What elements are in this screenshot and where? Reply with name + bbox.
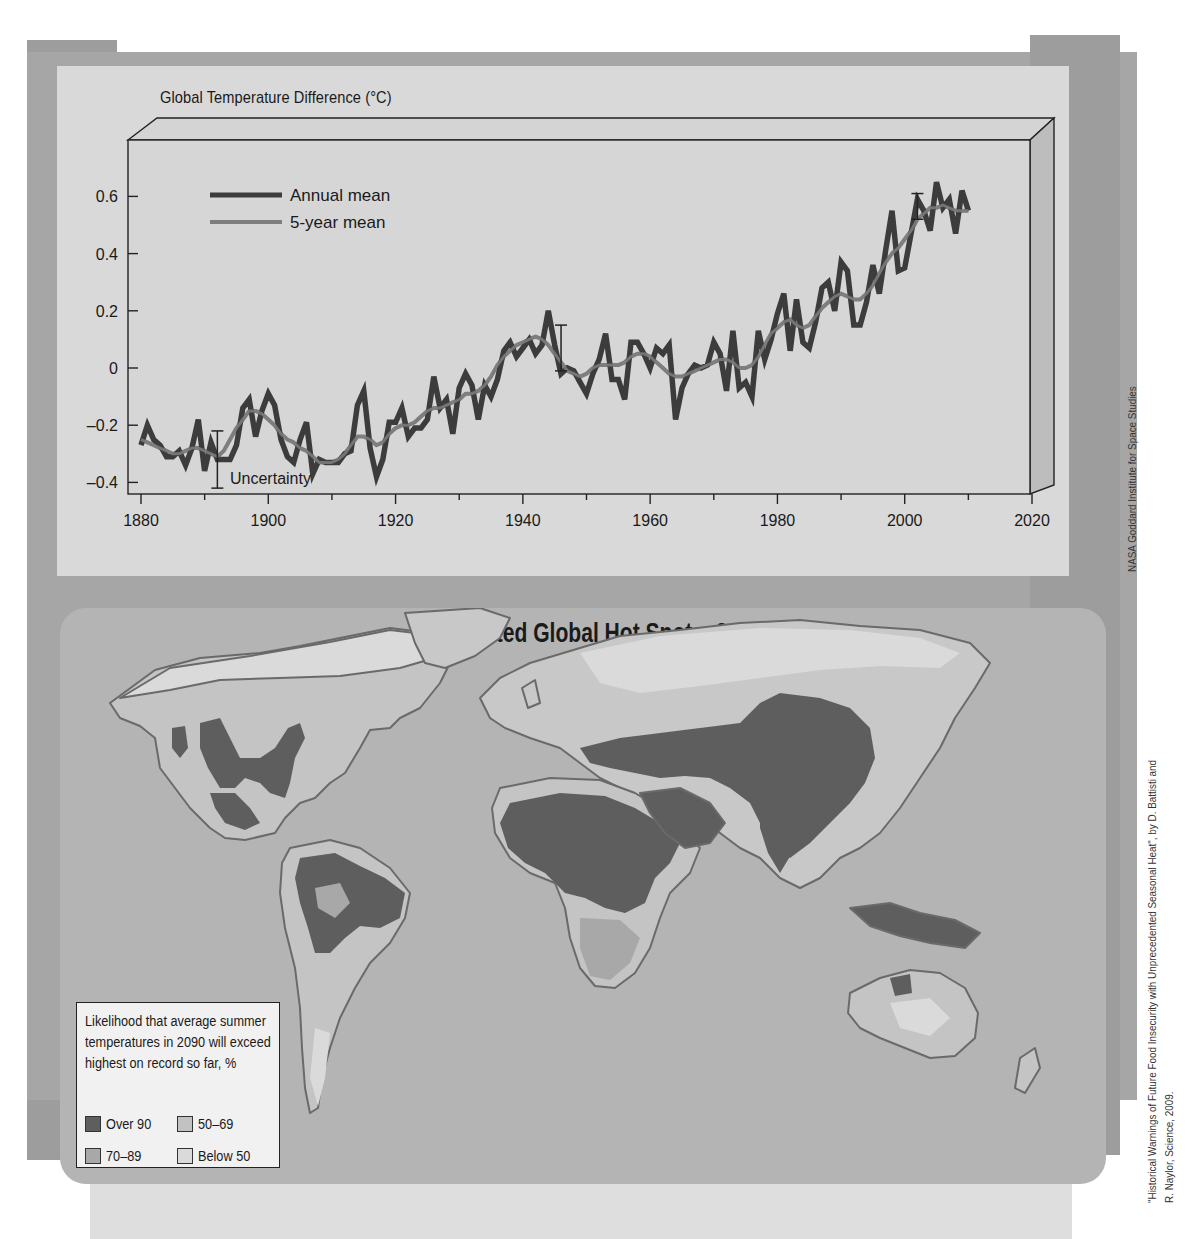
svg-text:1900: 1900 xyxy=(250,512,286,529)
swatch-70-89 xyxy=(85,1148,101,1164)
svg-text:–0.4: –0.4 xyxy=(87,474,118,491)
chart-box-top xyxy=(128,118,1054,140)
line-chart: –0.4–0.200.20.40.6 188019001920194019601… xyxy=(0,0,1194,600)
svg-text:1980: 1980 xyxy=(760,512,796,529)
svg-text:1920: 1920 xyxy=(378,512,414,529)
swatch-below-50 xyxy=(177,1148,193,1164)
map-source-credit-line1: "Historical Warnings of Future Food Inse… xyxy=(1146,760,1158,1203)
x-axis-ticks: 18801900192019401960198020002020 xyxy=(123,494,1050,529)
legend-item-50-69: 50–69 xyxy=(177,1115,241,1133)
legend-item-70-89: 70–89 xyxy=(85,1147,149,1165)
svg-text:1940: 1940 xyxy=(505,512,541,529)
svg-text:0.4: 0.4 xyxy=(96,246,118,263)
map-legend: Likelihood that average summer temperatu… xyxy=(76,1002,280,1168)
svg-text:1880: 1880 xyxy=(123,512,159,529)
legend-title: Likelihood that average summer temperatu… xyxy=(85,1010,282,1073)
svg-text:2000: 2000 xyxy=(887,512,923,529)
new-zealand xyxy=(1015,1048,1040,1093)
svg-text:2020: 2020 xyxy=(1014,512,1050,529)
swatch-50-69 xyxy=(177,1116,193,1132)
legend-item-below-50: Below 50 xyxy=(177,1147,262,1165)
indonesia-hotspot xyxy=(850,903,980,948)
legend-label-five-year: 5-year mean xyxy=(290,213,385,232)
svg-text:0: 0 xyxy=(109,360,118,377)
chart-box-side xyxy=(1030,118,1054,494)
map-source-credit-line2: R. Naylor, Science, 2009. xyxy=(1163,1091,1175,1203)
legend-label-annual: Annual mean xyxy=(290,186,390,205)
svg-text:0.2: 0.2 xyxy=(96,303,118,320)
svg-text:0.6: 0.6 xyxy=(96,188,118,205)
legend-item-over-90: Over 90 xyxy=(85,1115,161,1133)
svg-text:–0.2: –0.2 xyxy=(87,417,118,434)
swatch-over-90 xyxy=(85,1116,101,1132)
chart-source-credit: NASA Goddard Institute for Space Studies xyxy=(1126,386,1138,572)
uncertainty-label: Uncertainty xyxy=(230,470,311,487)
svg-text:1960: 1960 xyxy=(632,512,668,529)
